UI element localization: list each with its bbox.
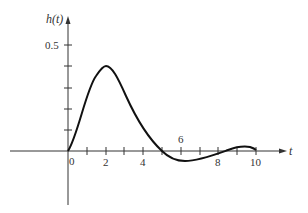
y-tick-label-0.5: 0.5 (45, 40, 59, 51)
x-tick-label-6: 6 (178, 134, 184, 145)
x-axis-label: t (289, 145, 292, 157)
y-axis-arrow-icon (66, 16, 71, 24)
x-tick-label-8: 8 (215, 157, 221, 168)
x-tick-label-10: 10 (250, 157, 261, 168)
x-tick-label-0: 0 (69, 156, 75, 167)
x-axis-arrow-icon (279, 149, 287, 154)
x-tick-label-4: 4 (140, 157, 146, 168)
h-curve (68, 66, 256, 161)
chart-canvas (0, 0, 308, 213)
y-axis-label: h(t) (46, 13, 63, 25)
x-tick-label-2: 2 (103, 157, 109, 168)
